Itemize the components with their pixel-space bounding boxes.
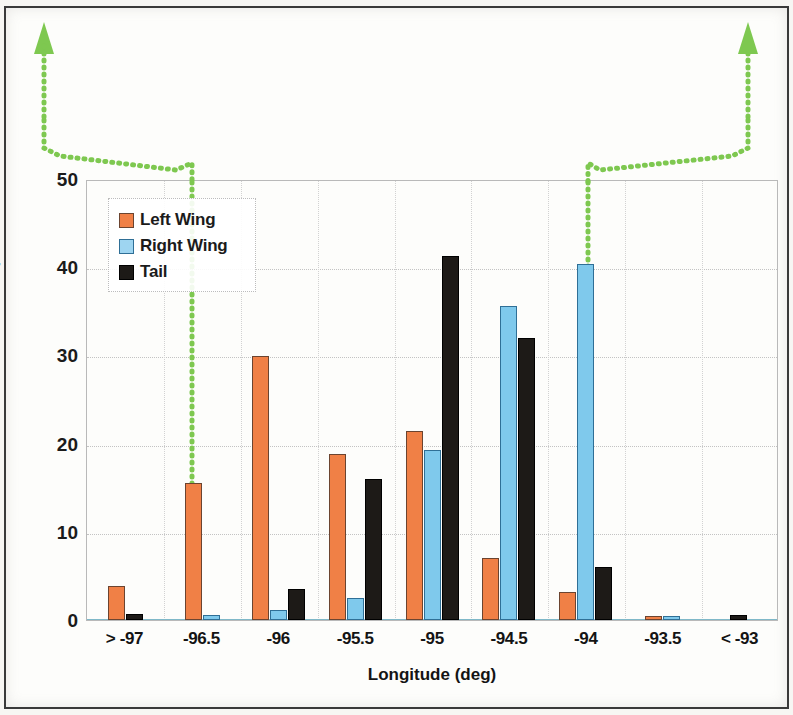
bar-tail: [288, 589, 305, 620]
x-axis-title: Longitude (deg): [86, 665, 778, 685]
bar-group--93: [700, 181, 777, 620]
bar-right-wing: [500, 306, 517, 620]
bar-tail: [595, 567, 612, 620]
legend-item-right-wing: Right Wing: [119, 236, 245, 256]
x-tick-label: -95.5: [317, 629, 394, 649]
bar-left-wing: [559, 592, 576, 620]
x-tick-label: < -93: [701, 629, 778, 649]
bar-right-wing: [424, 450, 441, 620]
legend-label-right-wing: Right Wing: [140, 236, 228, 256]
bar-left-wing: [185, 483, 202, 620]
screenshot-page: Percent of Debris per Bin 50 40 30 20 10…: [0, 0, 793, 715]
legend-label-left-wing: Left Wing: [140, 210, 215, 230]
bar-left-wing: [482, 558, 499, 620]
y-tick-10: 10: [26, 522, 78, 544]
x-tick-label: > -97: [86, 629, 163, 649]
bar-group--93.5: [624, 181, 701, 620]
bar-right-wing: [203, 615, 220, 620]
y-tick-30: 30: [26, 345, 78, 367]
x-tick-label: -94.5: [470, 629, 547, 649]
y-tick-40: 40: [26, 257, 78, 279]
legend-swatch-tail-icon: [119, 265, 134, 280]
x-tick-label: -94: [547, 629, 624, 649]
x-tick-label: -96: [240, 629, 317, 649]
bar-tail: [365, 479, 382, 620]
legend-swatch-left-wing-icon: [119, 213, 134, 228]
bar-right-wing: [347, 598, 364, 620]
x-axis-tick-labels: > -97-96.5-96-95.5-95-94.5-94-93.5< -93: [86, 629, 778, 649]
legend-swatch-right-wing-icon: [119, 239, 134, 254]
x-tick-label: -96.5: [163, 629, 240, 649]
y-tick-50: 50: [26, 169, 78, 191]
bar-group--94.5: [470, 181, 547, 620]
bar-right-wing: [577, 264, 594, 620]
bar-left-wing: [108, 586, 125, 620]
bar-group--95.5: [317, 181, 394, 620]
bar-left-wing: [252, 356, 269, 620]
bar-left-wing: [645, 616, 662, 620]
x-tick-label: -95: [394, 629, 471, 649]
bar-tail: [518, 338, 535, 620]
bar-tail: [730, 615, 747, 620]
y-tick-20: 20: [26, 434, 78, 456]
bar-right-wing: [663, 616, 680, 620]
y-tick-0: 0: [26, 610, 78, 632]
legend-item-left-wing: Left Wing: [119, 210, 245, 230]
chart-legend: Left Wing Right Wing Tail: [108, 198, 256, 292]
bar-right-wing: [270, 610, 287, 620]
legend-label-tail: Tail: [140, 262, 167, 282]
bar-left-wing: [329, 454, 346, 620]
bar-tail: [442, 256, 459, 620]
x-tick-label: -93.5: [624, 629, 701, 649]
bar-left-wing: [406, 431, 423, 620]
legend-item-tail: Tail: [119, 262, 245, 282]
bar-group--94: [547, 181, 624, 620]
bar-group--95: [394, 181, 471, 620]
bar-tail: [126, 614, 143, 620]
